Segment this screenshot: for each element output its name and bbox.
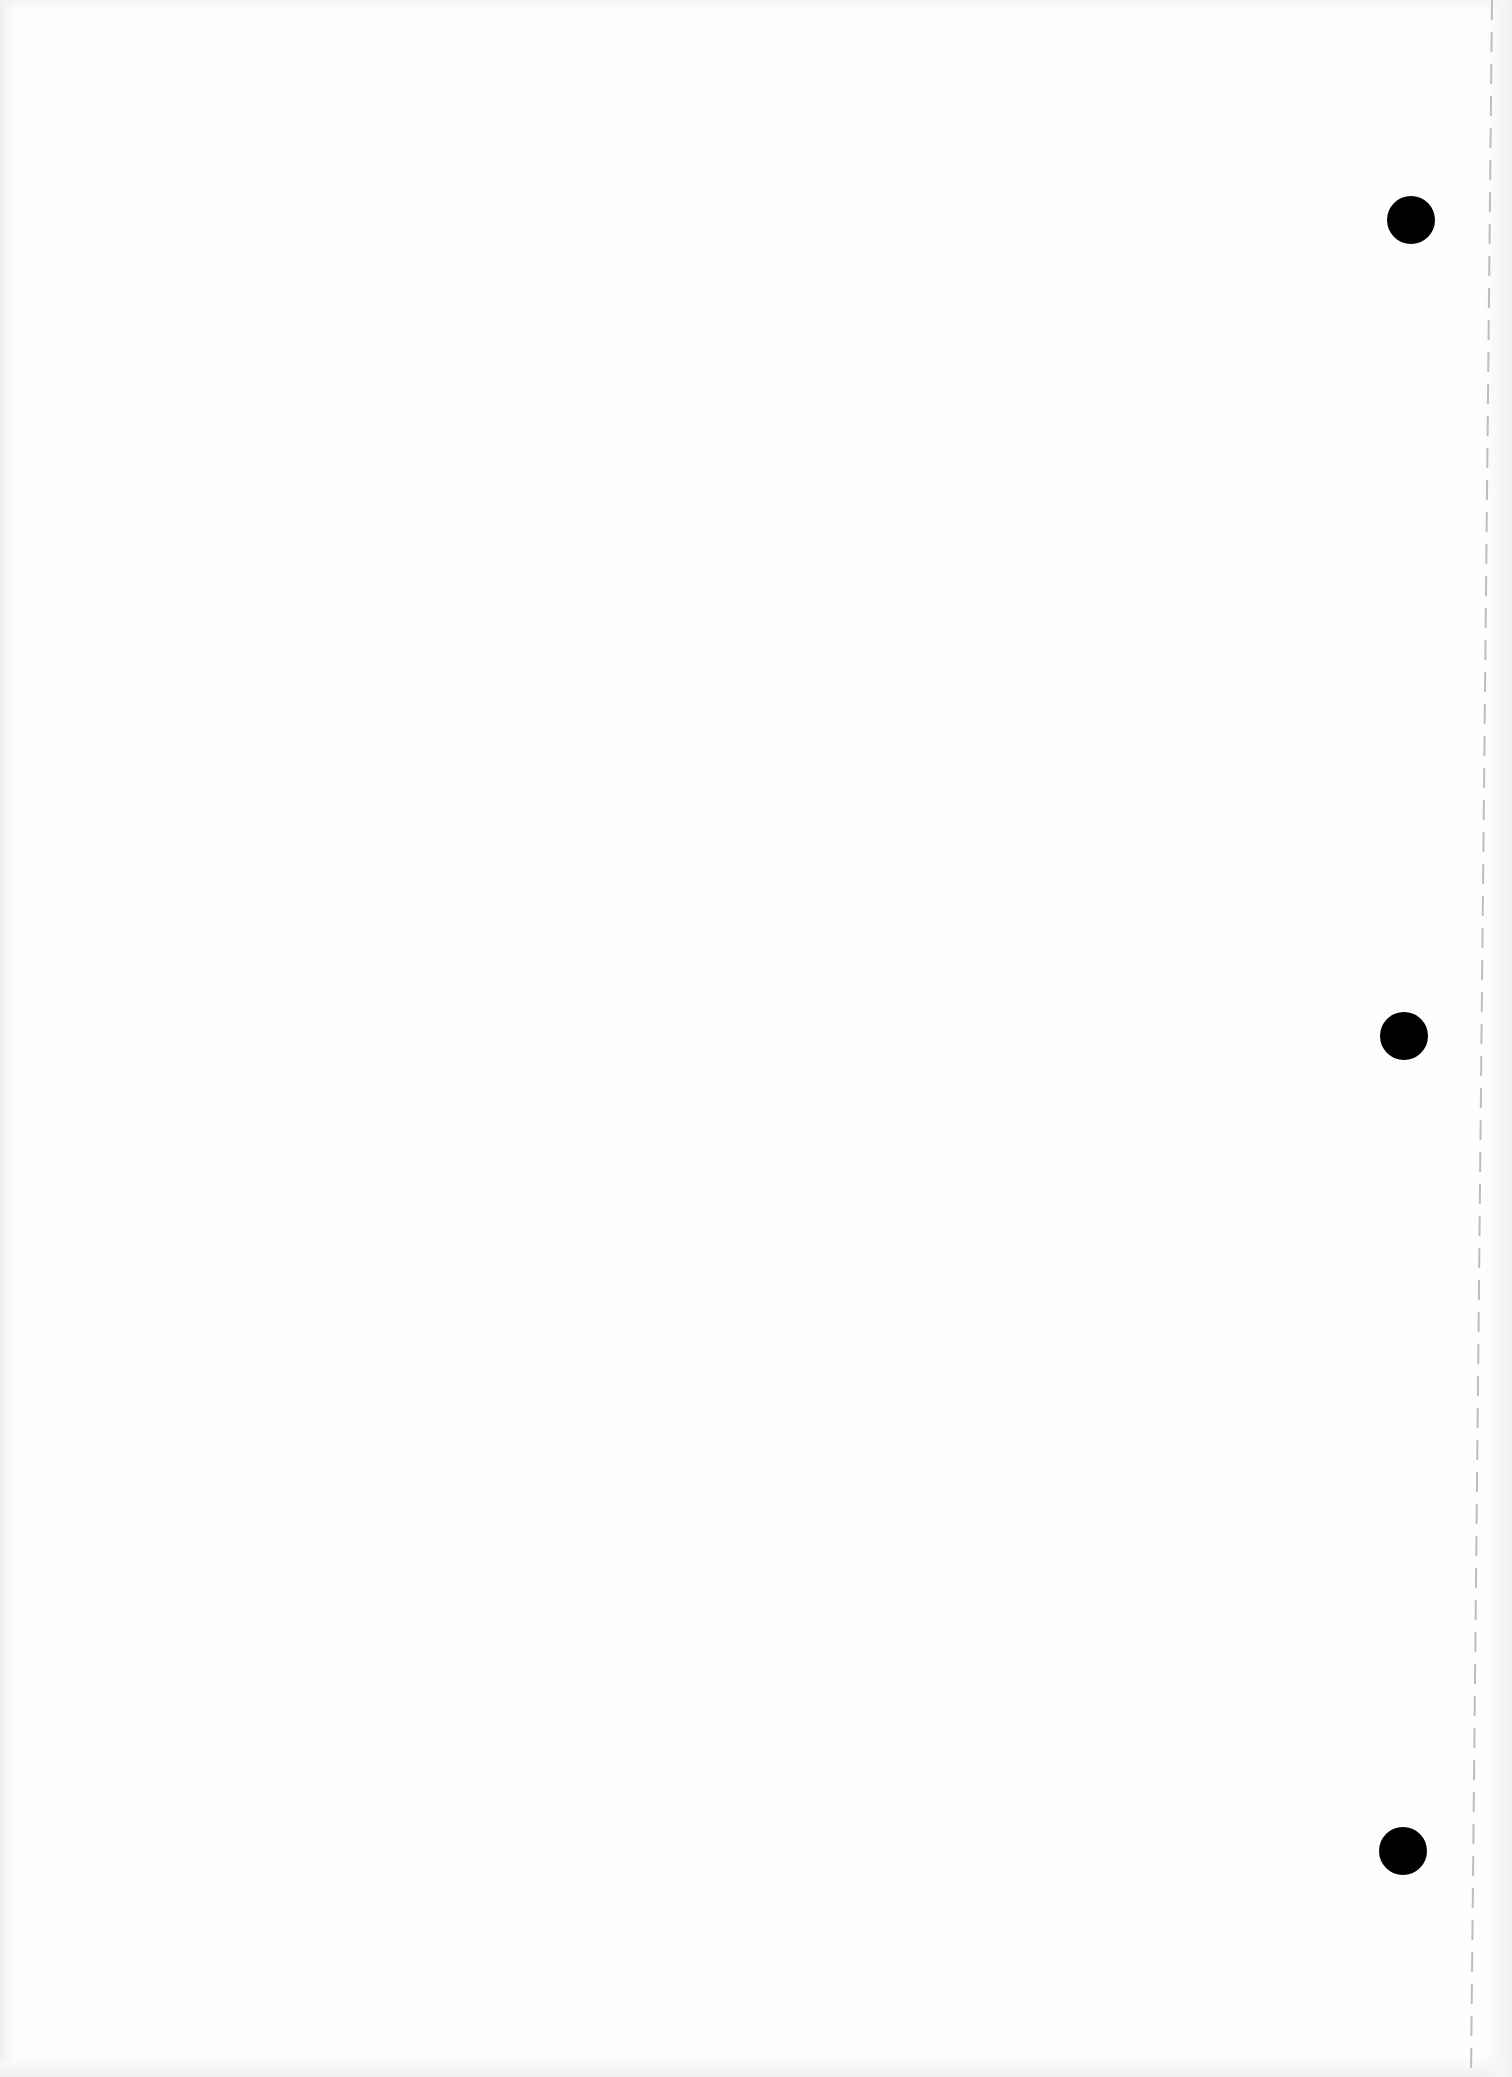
right-margin-strip: [1482, 0, 1512, 2077]
top-edge-shadow: [0, 0, 1512, 10]
scanned-page: [0, 0, 1512, 2077]
left-edge-shadow: [0, 0, 14, 2077]
punch-hole-icon: [1380, 1012, 1428, 1060]
punch-hole-icon: [1387, 196, 1435, 244]
punch-hole-icon: [1379, 1827, 1427, 1875]
bottom-edge-shadow: [0, 2055, 1512, 2077]
